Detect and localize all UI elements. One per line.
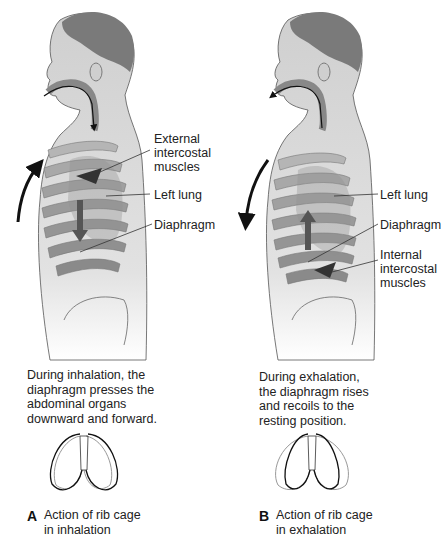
rib-up-arrow-icon [18,166,38,222]
label-external-intercostal-muscles: External intercostal muscles [154,132,211,174]
panel-title-a: Action of rib cage in inhalation [44,508,141,538]
caption-inhalation: During inhalation, the diaphragm presses… [27,368,157,426]
figure-a-body [18,12,152,360]
label-diaphragm-b: Diaphragm [380,218,441,232]
panel-title-b: Action of rib cage in exhalation [276,508,373,538]
label-left-lung-b: Left lung [380,188,428,202]
rib-down-arrow-icon [246,160,268,222]
label-left-lung-a: Left lung [154,188,202,202]
caption-exhalation: During exhalation, the diaphragm rises a… [259,370,369,428]
rib-cage-front-icon-b [276,434,349,490]
rib-cage-front-icon-a [50,434,117,490]
label-internal-intercostal-muscles: Internal intercostal muscles [380,248,437,290]
label-diaphragm-a: Diaphragm [154,218,215,232]
panel-letter-a: A [27,508,37,524]
figure-b-body [246,12,378,360]
panel-letter-b: B [259,508,269,524]
